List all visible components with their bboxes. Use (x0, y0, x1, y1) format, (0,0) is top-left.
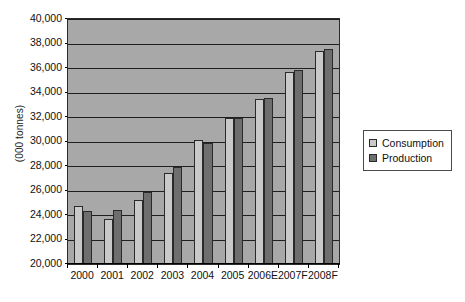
y-axis-tick-label: 40,000 (8, 13, 62, 24)
y-axis-tick-label: 28,000 (8, 160, 62, 171)
y-axis-tick-label: 34,000 (8, 86, 62, 97)
x-axis-tick-mark (187, 264, 188, 268)
y-axis-tick-labels: 20,00022,00024,00026,00028,00030,00032,0… (8, 10, 62, 272)
bar-consumption-2002 (134, 200, 143, 264)
bar-production-2008F (324, 49, 333, 264)
y-axis-tick-label: 26,000 (8, 184, 62, 195)
bar-production-2004 (203, 143, 212, 264)
bar-consumption-2004 (194, 140, 203, 264)
bar-consumption-2008F (315, 51, 324, 264)
x-axis-tick-label: 2001 (97, 269, 127, 282)
bar-group (255, 19, 273, 264)
bar-group (225, 19, 243, 264)
bar-group (74, 19, 92, 264)
legend-swatch-consumption (369, 139, 377, 147)
legend-item-consumption: Consumption (369, 135, 444, 150)
y-axis-tick-label: 30,000 (8, 135, 62, 146)
y-axis-tick-label: 20,000 (8, 258, 62, 269)
x-axis-tick-mark (278, 264, 279, 268)
bar-group (194, 19, 212, 264)
x-axis-tick-label: 2000 (67, 269, 97, 282)
bar-consumption-2007F (285, 72, 294, 264)
x-axis-tick-mark (248, 264, 249, 268)
bar-production-2000 (83, 211, 92, 264)
y-axis-tick-label: 36,000 (8, 62, 62, 73)
bar-consumption-2001 (104, 219, 113, 264)
x-axis-tick-mark (218, 264, 219, 268)
x-axis-tick-label: 2003 (157, 269, 187, 282)
bar-group (164, 19, 182, 264)
legend-label: Production (382, 152, 432, 164)
x-axis-tick-label: 2007F (278, 269, 308, 282)
bar-production-2003 (173, 167, 182, 264)
bar-consumption-2005 (225, 118, 234, 264)
legend-swatch-production (369, 154, 377, 162)
chart-figure: (000 tonnes) 20,00022,00024,00026,00028,… (0, 0, 465, 302)
bar-production-2006E (264, 98, 273, 264)
bar-production-2002 (143, 192, 152, 264)
x-axis-tick-label: 2002 (127, 269, 157, 282)
bar-production-2007F (294, 70, 303, 264)
y-axis-tick-label: 32,000 (8, 111, 62, 122)
legend-item-production: Production (369, 150, 444, 165)
bar-group (285, 19, 303, 264)
x-axis-tick-label: 2008F (308, 269, 338, 282)
bar-production-2005 (234, 118, 243, 264)
bar-consumption-2000 (74, 206, 83, 264)
x-axis-tick-mark (338, 264, 339, 268)
x-axis-tick-label: 2005 (218, 269, 248, 282)
bar-group (104, 19, 122, 264)
x-axis-tick-label: 2006E (248, 269, 278, 282)
x-axis-tick-labels: 2000200120022003200420052006E2007F2008F (67, 269, 338, 285)
legend-label: Consumption (382, 137, 444, 149)
x-axis-tick-mark (308, 264, 309, 268)
x-axis-tick-mark (67, 264, 68, 268)
x-axis-tick-mark (97, 264, 98, 268)
plot-area (67, 18, 340, 265)
y-axis-tick-label: 38,000 (8, 37, 62, 48)
chart-legend: ConsumptionProduction (363, 130, 452, 171)
bar-consumption-2003 (164, 173, 173, 264)
bar-production-2001 (113, 210, 122, 264)
bar-consumption-2006E (255, 99, 264, 264)
bars-layer (68, 19, 339, 264)
y-axis-tick-label: 24,000 (8, 209, 62, 220)
x-axis-line (67, 263, 340, 264)
x-axis-tick-mark (157, 264, 158, 268)
y-axis-tick-label: 22,000 (8, 233, 62, 244)
bar-group (134, 19, 152, 264)
bar-group (315, 19, 333, 264)
x-axis-tick-mark (127, 264, 128, 268)
x-axis-tick-label: 2004 (187, 269, 217, 282)
